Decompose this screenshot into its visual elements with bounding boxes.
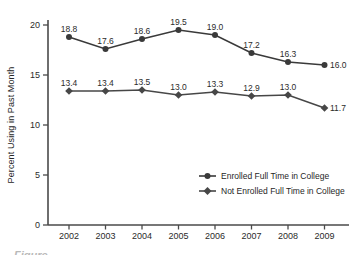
data-point-label: 19.5 [170,17,187,27]
data-point-marker [175,91,183,99]
data-point-marker [138,86,146,94]
data-point-marker [66,34,72,40]
data-point-marker [212,32,218,38]
y-axis-tick-label: 0 [35,220,40,230]
data-point-marker [102,87,110,95]
chart-container: Percent Using in Past Month 051015202002… [0,0,362,255]
data-point-marker [322,62,328,68]
data-point-label: 16.3 [280,49,297,59]
circle-marker-icon [198,171,217,181]
x-axis-tick-label: 2003 [95,231,115,241]
x-axis-tick-label: 2007 [241,231,261,241]
data-point-marker [65,87,73,95]
data-point-label: 13.4 [61,78,78,88]
legend: Enrolled Full Time in College Not Enroll… [198,168,345,198]
data-point-label: 13.4 [97,78,114,88]
data-point-marker [285,59,291,65]
x-axis-tick-label: 2005 [168,231,188,241]
data-point-label: 13.5 [134,77,151,87]
data-point-label: 13.0 [170,82,187,92]
x-axis-tick-label: 2008 [278,231,298,241]
data-point-label: 17.2 [243,40,260,50]
data-point-marker [284,91,292,99]
data-point-marker [139,36,145,42]
data-point-label: 18.8 [61,24,78,34]
x-axis-tick-label: 2004 [132,231,152,241]
data-point-marker [176,27,182,33]
y-axis-tick-label: 10 [30,120,40,130]
legend-label-enrolled: Enrolled Full Time in College [221,171,329,181]
caption-fragment: Figure [14,249,48,255]
x-axis-tick-label: 2002 [59,231,79,241]
data-point-label: 18.6 [134,26,151,36]
legend-item-enrolled: Enrolled Full Time in College [198,168,345,183]
data-point-marker [103,46,109,52]
data-point-label: 13.0 [280,82,297,92]
data-point-marker [248,92,256,100]
x-axis-tick-label: 2009 [314,231,334,241]
line-chart-plot: 0510152020022003200420052006200720082009… [0,0,362,255]
data-point-label: 13.3 [207,79,224,89]
data-point-marker [249,50,255,56]
data-point-label: 12.9 [243,83,260,93]
data-point-label: 11.7 [330,103,346,113]
legend-item-not-enrolled: Not Enrolled Full Time in College [198,183,345,198]
diamond-marker-icon [198,186,217,196]
data-point-label: 17.6 [97,36,114,46]
data-point-label: 16.0 [330,60,347,70]
data-point-marker [211,88,219,96]
data-point-label: 19.0 [207,22,224,32]
x-axis-tick-label: 2006 [205,231,225,241]
data-point-marker [321,104,329,112]
legend-label-not-enrolled: Not Enrolled Full Time in College [221,186,345,196]
y-axis-tick-label: 20 [30,20,40,30]
y-axis-tick-label: 15 [30,70,40,80]
y-axis-tick-label: 5 [35,170,40,180]
